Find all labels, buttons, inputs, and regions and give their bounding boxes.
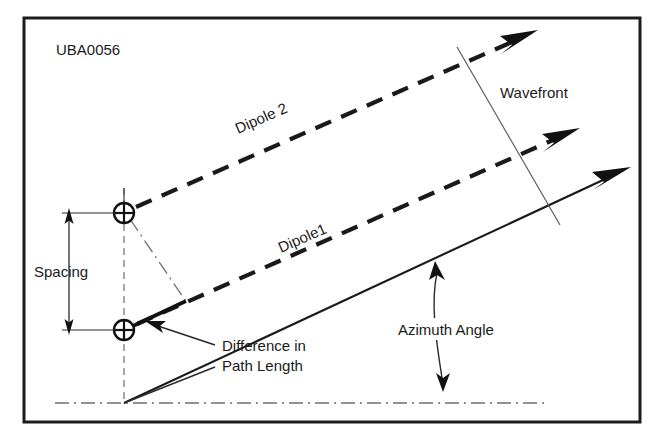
azimuth-angle-label: Azimuth Angle [398, 321, 494, 338]
azimuth-ray [124, 180, 603, 403]
dipole2-arrowhead [500, 30, 538, 54]
dipole-marker-upper [114, 203, 134, 223]
figure-id-label: UBA0056 [56, 41, 120, 58]
wavefront-label: Wavefront [500, 84, 569, 101]
path-difference-label-line2: Path Length [222, 357, 303, 374]
dipole2-label: Dipole 2 [232, 99, 289, 137]
dipole1-arrowhead [542, 128, 580, 152]
azimuth-arrow-lower [436, 373, 450, 392]
dipole2-label-group: Dipole 2 [232, 99, 289, 137]
azimuth-ray-arrowhead [592, 167, 631, 190]
wavefront-line [457, 47, 560, 225]
dipole-marker-lower [114, 320, 134, 340]
antenna-array-diagram: UBA0056 Wavefront Dipole 2 Dipole1 Sp [0, 0, 659, 435]
path-difference-leader [155, 325, 215, 345]
spacing-label: Spacing [34, 263, 88, 280]
path-difference-construction-line [130, 219, 185, 300]
figure-container: UBA0056 Wavefront Dipole 2 Dipole1 Sp [0, 0, 659, 435]
azimuth-arrow-upper [429, 261, 445, 280]
path-difference-label-line1: Difference in [222, 337, 306, 354]
origin-leader [124, 367, 215, 403]
